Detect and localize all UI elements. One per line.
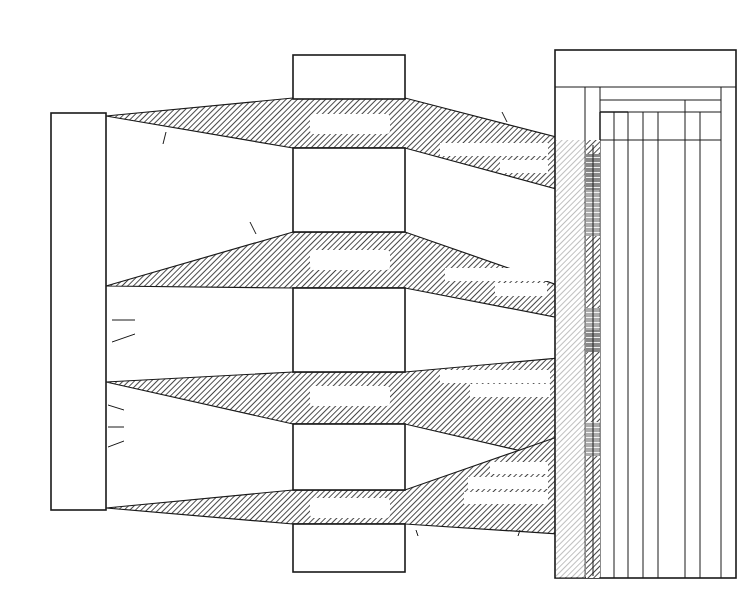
section-zanclean bbox=[293, 55, 405, 99]
hiatus-label-epsilon1 bbox=[310, 498, 390, 518]
diagram-canvas bbox=[0, 0, 741, 607]
geochronological-framework bbox=[555, 50, 736, 578]
annotation-time-gaps bbox=[163, 132, 256, 234]
arrow-left-icon bbox=[108, 405, 124, 410]
sequence-column bbox=[51, 113, 106, 510]
hiatus-label-rho bbox=[310, 114, 390, 134]
hiatus-label-theta1 bbox=[310, 386, 390, 406]
arrow-down-icon bbox=[250, 222, 256, 234]
section-late-chattian bbox=[293, 524, 405, 572]
arrow-up-icon bbox=[416, 530, 418, 536]
arrow-left-icon bbox=[108, 441, 124, 447]
annotation-physical-unconformity bbox=[112, 320, 135, 342]
arrow-left-icon bbox=[112, 334, 135, 342]
section-serravallian bbox=[293, 148, 405, 232]
annotation-upper-boundary bbox=[502, 112, 507, 122]
arrow-down-icon bbox=[502, 112, 507, 122]
section-langhian bbox=[293, 288, 405, 372]
arrow-up-icon bbox=[163, 132, 166, 144]
annotation-sequences-bound bbox=[108, 405, 124, 447]
section-burdigalian bbox=[293, 424, 405, 490]
hiatus-label-lambda1 bbox=[310, 250, 390, 270]
